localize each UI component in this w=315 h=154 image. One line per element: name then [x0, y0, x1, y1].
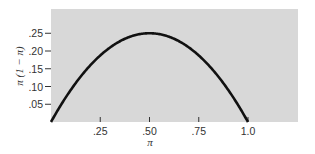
y-tick-label: .25 — [28, 27, 43, 39]
y-tick-label: .05 — [28, 98, 43, 110]
y-tick-label: .10 — [28, 81, 43, 93]
y-axis-label: π (1 − π) — [13, 46, 26, 86]
plot-area — [51, 9, 298, 122]
y-tick-label: .15 — [28, 63, 43, 75]
y-tick-label: .20 — [28, 45, 43, 57]
x-tick-label: .75 — [191, 125, 206, 137]
x-axis-label: π — [147, 136, 153, 148]
y-axis: .05.10.15.20.25 — [28, 27, 51, 110]
x-tick-label: .25 — [93, 125, 108, 137]
chart: .05.10.15.20.25 .25.50.751.0 π π (1 − π) — [0, 0, 315, 154]
x-tick-label: 1.0 — [241, 125, 256, 137]
